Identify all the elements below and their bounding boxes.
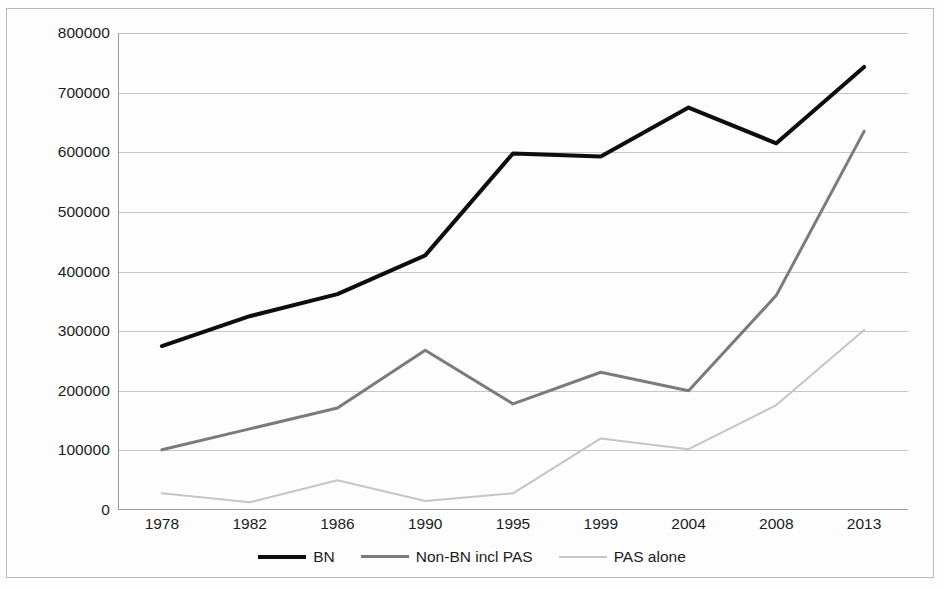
y-axis-tick-label: 400000 [58, 263, 110, 281]
x-axis-tick-label: 2004 [671, 515, 705, 533]
y-axis-tick-label: 500000 [58, 203, 110, 221]
x-axis-tick-label: 2013 [847, 515, 881, 533]
x-axis-tick-label: 1990 [408, 515, 442, 533]
y-axis-tick-label: 800000 [58, 24, 110, 42]
chart-series-canvas [118, 33, 908, 510]
x-axis-tick-label: 1978 [145, 515, 179, 533]
series-line-0 [162, 67, 864, 346]
legend-line-swatch-icon [559, 556, 607, 558]
y-axis-tick-label: 300000 [58, 322, 110, 340]
plot-wrapper [118, 33, 908, 510]
series-line-1 [162, 131, 864, 449]
chart-figure: 8000007000006000005000004000003000002000… [0, 0, 944, 589]
x-axis-tick-label: 1982 [232, 515, 266, 533]
legend-item[interactable]: Non-BN incl PAS [361, 549, 533, 565]
y-axis-tick-label: 600000 [58, 143, 110, 161]
x-axis-tick-label: 2008 [759, 515, 793, 533]
legend-line-swatch-icon [361, 555, 409, 558]
x-axis-tick-label: 1995 [496, 515, 530, 533]
legend-item-label: PAS alone [614, 549, 686, 565]
y-axis-tick-label: 0 [101, 501, 110, 519]
series-line-2 [162, 330, 864, 502]
legend-item[interactable]: PAS alone [559, 549, 686, 565]
legend-item[interactable]: BN [258, 549, 335, 565]
x-axis-tick-labels: 197819821986199019951999200420082013 [118, 515, 908, 541]
legend-line-swatch-icon [258, 555, 306, 559]
legend-item-label: Non-BN incl PAS [416, 549, 533, 565]
x-axis-tick-label: 1999 [584, 515, 618, 533]
x-axis-tick-label: 1986 [320, 515, 354, 533]
y-axis-tick-label: 200000 [58, 382, 110, 400]
legend-item-label: BN [313, 549, 335, 565]
y-axis-tick-label: 100000 [58, 441, 110, 459]
y-axis-tick-label: 700000 [58, 84, 110, 102]
y-axis-tick-labels: 8000007000006000005000004000003000002000… [0, 33, 110, 510]
chart-legend: BNNon-BN incl PASPAS alone [0, 549, 944, 565]
